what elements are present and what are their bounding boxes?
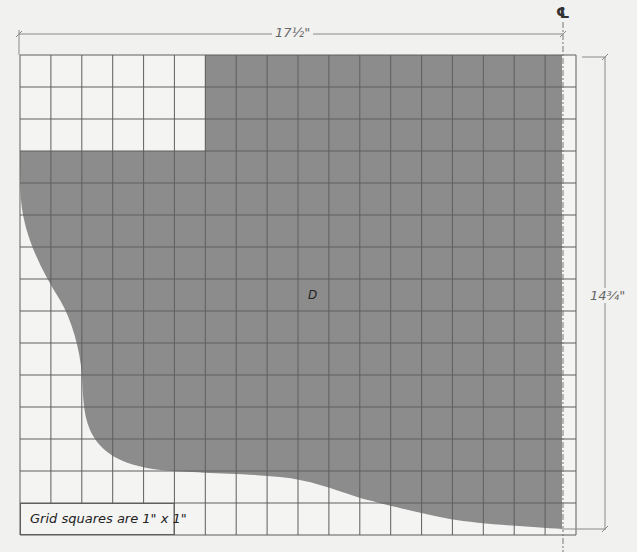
pattern-svg (0, 0, 637, 552)
height-dimension-label: 14¾" (588, 288, 627, 303)
width-dimension-label: 17½" (272, 25, 313, 40)
centerline-symbol: ℄ (556, 4, 569, 22)
grid-scale-caption: Grid squares are 1" x 1" (30, 511, 187, 526)
pattern-piece-label: D (308, 288, 317, 302)
pattern-diagram: ℄ 17½" 14¾" D Grid squares are 1" x 1" (0, 0, 637, 552)
